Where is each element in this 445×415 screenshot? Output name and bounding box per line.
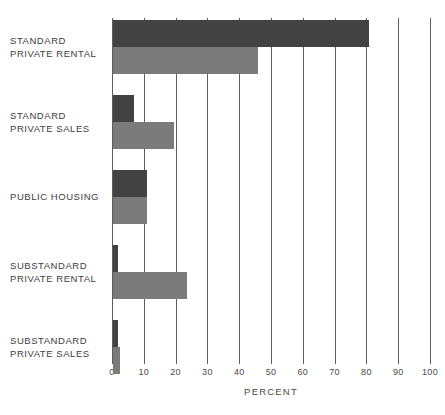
tick-mark-80	[366, 357, 367, 364]
category-label-2: PUBLIC HOUSING	[10, 190, 110, 204]
tick-mark-70	[335, 357, 336, 364]
category-label-0: STANDARD PRIVATE RENTAL	[10, 34, 110, 61]
chart-page: 0102030405060708090100 STANDARD PRIVATE …	[0, 0, 445, 415]
bar-dark-3	[113, 245, 118, 272]
gridline-70	[335, 18, 336, 357]
tick-mark-20	[176, 357, 177, 364]
x-tick-label-70: 70	[329, 367, 340, 377]
bar-dark-1	[113, 95, 134, 122]
gridline-100	[430, 18, 431, 357]
gridline-60	[303, 18, 304, 357]
gridline-50	[271, 18, 272, 357]
x-tick-label-90: 90	[393, 367, 404, 377]
x-tick-label-40: 40	[234, 367, 245, 377]
x-tick-label-100: 100	[422, 367, 438, 377]
bar-dark-2	[113, 170, 147, 197]
x-tick-label-20: 20	[170, 367, 181, 377]
bar-light-1	[113, 122, 174, 149]
gridline-80	[366, 18, 367, 357]
category-label-4: SUBSTANDARD PRIVATE SALES	[10, 334, 110, 361]
x-axis-title: PERCENT	[112, 386, 430, 397]
x-tick-label-10: 10	[138, 367, 149, 377]
tick-mark-100	[430, 357, 431, 364]
tick-mark-50	[271, 357, 272, 364]
tick-mark-10	[144, 357, 145, 364]
x-tick-label-80: 80	[361, 367, 372, 377]
bar-light-4	[113, 347, 120, 374]
x-tick-label-50: 50	[266, 367, 277, 377]
plot-area: 0102030405060708090100	[112, 18, 430, 357]
x-tick-label-30: 30	[202, 367, 213, 377]
x-tick-label-60: 60	[297, 367, 308, 377]
tick-mark-60	[303, 357, 304, 364]
tick-mark-40	[239, 357, 240, 364]
bar-light-0	[113, 47, 258, 74]
tick-mark-90	[398, 357, 399, 364]
gridline-90	[398, 18, 399, 357]
category-label-3: SUBSTANDARD PRIVATE RENTAL	[10, 259, 110, 286]
bar-light-3	[113, 272, 187, 299]
category-label-1: STANDARD PRIVATE SALES	[10, 109, 110, 136]
bar-light-2	[113, 197, 147, 224]
tick-mark-30	[207, 357, 208, 364]
bar-dark-0	[113, 20, 369, 47]
bar-dark-4	[113, 320, 118, 347]
